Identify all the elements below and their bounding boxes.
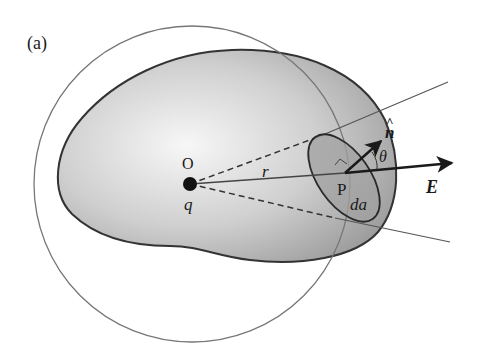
panel-label: (a) <box>27 33 47 54</box>
normal-hat: ^ <box>386 114 394 129</box>
angle-label: θ <box>379 148 387 165</box>
point-charge <box>183 177 197 191</box>
origin-label: O <box>182 155 194 172</box>
point-label: P <box>337 180 346 199</box>
field-label: E <box>425 177 438 197</box>
gauss-law-diagram: (a) O q r P da n ^ θ E <box>0 0 478 361</box>
charge-label: q <box>184 195 193 214</box>
area-element-label: da <box>350 195 367 214</box>
distance-label: r <box>262 162 269 181</box>
